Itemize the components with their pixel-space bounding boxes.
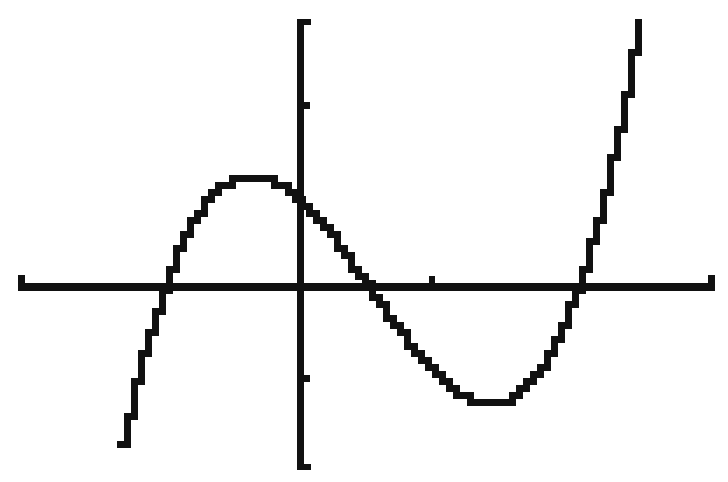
curve-segment <box>544 350 551 371</box>
curve-segment <box>208 189 215 203</box>
curve-segment <box>362 273 369 287</box>
curve-segment <box>145 329 152 357</box>
curve-segment <box>369 280 376 301</box>
curve-segment <box>236 175 243 182</box>
curve-segment <box>292 189 299 203</box>
curve-segment <box>635 19 642 56</box>
curve-segment <box>180 231 187 252</box>
curve-segment <box>530 371 537 385</box>
curve-segment <box>621 91 628 133</box>
curve-segment <box>614 126 621 161</box>
y-axis-bottom-end-tick <box>300 464 311 470</box>
curve-segment <box>138 350 145 385</box>
curve-segment <box>551 336 558 357</box>
curve-segment <box>460 392 467 399</box>
curve-segment <box>229 175 236 189</box>
x-axis-right-end-tick <box>708 275 715 287</box>
curve-segment <box>194 210 201 224</box>
curve-segment <box>488 399 495 406</box>
curve-segment <box>348 252 355 273</box>
curve-segment <box>215 182 222 196</box>
curve-segment <box>572 287 579 308</box>
x-axis-left-end-tick <box>18 275 25 287</box>
curve-segment <box>117 441 124 448</box>
curve-segment <box>516 385 523 399</box>
curve-segment <box>411 343 418 357</box>
curve-segment <box>397 322 404 336</box>
curve-segment <box>418 350 425 364</box>
curve-segment <box>383 301 390 322</box>
curve-segment <box>320 217 327 231</box>
y-tick <box>300 375 310 382</box>
curve-segment <box>558 322 565 343</box>
curve-segment <box>495 399 502 406</box>
curve-segment <box>390 315 397 329</box>
curve-segment <box>432 364 439 378</box>
curve-segment <box>453 385 460 399</box>
y-tick <box>300 102 310 109</box>
curve-segment <box>131 378 138 420</box>
curve-segment <box>173 245 180 273</box>
x-tick <box>429 276 435 284</box>
curve-segment <box>474 399 481 406</box>
curve-segment <box>425 357 432 371</box>
curve-segment <box>341 245 348 259</box>
curve-segment <box>285 182 292 196</box>
curve-segment <box>593 217 600 245</box>
curve-segment <box>565 301 572 329</box>
function-graph <box>0 0 728 482</box>
y-axis <box>297 19 304 470</box>
curve-segment <box>502 399 509 406</box>
curve-segment <box>467 392 474 406</box>
curve-segment <box>257 175 264 182</box>
curve-segment <box>222 182 229 189</box>
curve-segment <box>278 182 285 189</box>
curve-segment <box>509 392 516 406</box>
curve-segment <box>250 175 257 182</box>
curve-segment <box>152 308 159 336</box>
curve-segment <box>628 49 635 98</box>
plot-background <box>0 0 728 482</box>
curve-segment <box>264 175 271 182</box>
curve-segment <box>299 196 306 210</box>
curve-segment <box>523 378 530 392</box>
curve-segment <box>159 287 166 315</box>
curve-segment <box>600 189 607 224</box>
curve-segment <box>439 371 446 385</box>
curve-segment <box>404 329 411 350</box>
curve-segment <box>187 217 194 238</box>
curve-segment <box>313 210 320 224</box>
curve-segment <box>446 378 453 392</box>
curve-segment <box>124 413 131 448</box>
curve-segment <box>243 175 250 182</box>
y-axis-top-end-tick <box>300 19 311 25</box>
curve-segment <box>306 203 313 217</box>
curve-segment <box>327 224 334 238</box>
curve-segment <box>481 399 488 406</box>
curve-segment <box>355 266 362 280</box>
curve-segment <box>586 238 593 273</box>
curve-segment <box>334 231 341 252</box>
curve-segment <box>201 196 208 217</box>
curve-segment <box>579 266 586 294</box>
curve-segment <box>166 266 173 294</box>
curve-segment <box>376 294 383 308</box>
curve-segment <box>271 175 278 189</box>
curve-segment <box>537 364 544 378</box>
curve-segment <box>607 154 614 196</box>
